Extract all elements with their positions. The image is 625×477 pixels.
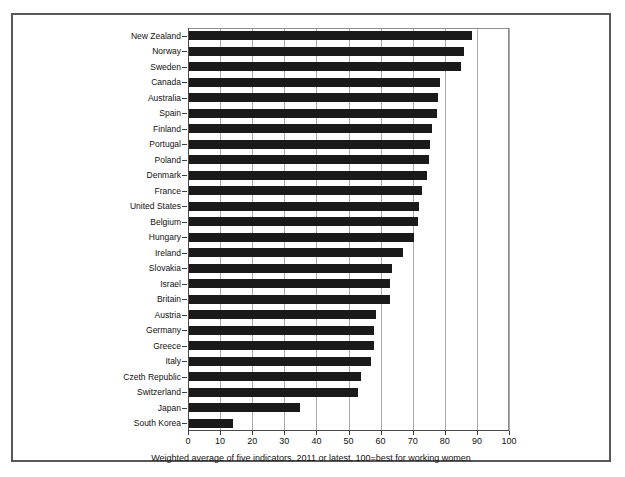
category-axis-labels: New ZealandNorwaySwedenCanadaAustraliaSp… <box>13 28 181 431</box>
x-axis-tick-label: 40 <box>311 436 321 446</box>
bar-row <box>188 109 509 118</box>
bar <box>188 109 437 118</box>
category-label: Spain <box>159 108 181 118</box>
category-tick <box>182 51 187 52</box>
bar-row <box>188 419 509 428</box>
x-axis-tick <box>509 431 510 435</box>
x-axis-tick-label: 80 <box>440 436 450 446</box>
bar-row <box>188 403 509 412</box>
x-axis-tick <box>284 431 285 435</box>
x-axis-tick <box>413 431 414 435</box>
bar <box>188 403 300 412</box>
bar-row <box>188 372 509 381</box>
bar-row <box>188 279 509 288</box>
category-tick <box>182 36 187 37</box>
category-label: Slovakia <box>149 263 181 273</box>
bar <box>188 233 414 242</box>
category-tick <box>182 160 187 161</box>
bar <box>188 31 472 40</box>
x-axis-tick-label: 100 <box>501 436 516 446</box>
bar <box>188 310 376 319</box>
x-axis-tick <box>220 431 221 435</box>
category-tick <box>182 284 187 285</box>
bar-row <box>188 140 509 149</box>
bar-row <box>188 171 509 180</box>
chart-caption: Weighted average of five indicators, 201… <box>13 453 609 463</box>
x-axis-tick-label: 70 <box>408 436 418 446</box>
category-tick <box>182 98 187 99</box>
category-tick <box>182 377 187 378</box>
bar <box>188 93 438 102</box>
category-tick <box>182 191 187 192</box>
category-tick <box>182 175 187 176</box>
category-label: United States <box>130 201 181 211</box>
category-tick <box>182 206 187 207</box>
category-label: Britain <box>157 294 181 304</box>
bar-row <box>188 326 509 335</box>
category-tick <box>182 237 187 238</box>
category-tick <box>182 408 187 409</box>
x-axis-tick-label: 20 <box>247 436 257 446</box>
bar-row <box>188 264 509 273</box>
category-tick <box>182 315 187 316</box>
category-tick <box>182 67 187 68</box>
category-label: Portugal <box>149 139 181 149</box>
x-axis-tick <box>252 431 253 435</box>
bar <box>188 140 430 149</box>
x-axis-tick <box>349 431 350 435</box>
bar <box>188 78 440 87</box>
category-label: South Korea <box>134 418 181 428</box>
category-label: Sweden <box>150 62 181 72</box>
category-label: Finland <box>153 124 181 134</box>
category-label: Israel <box>160 279 181 289</box>
category-label: Ireland <box>155 248 181 258</box>
bar-row <box>188 62 509 71</box>
bar <box>188 341 374 350</box>
bar <box>188 155 429 164</box>
bar <box>188 202 419 211</box>
bar <box>188 186 422 195</box>
bar-series <box>188 28 509 431</box>
bar-row <box>188 310 509 319</box>
x-axis-tick-label: 0 <box>185 436 190 446</box>
category-label: Italy <box>165 356 181 366</box>
category-tick <box>182 129 187 130</box>
category-tick <box>182 361 187 362</box>
category-label: Hungary <box>149 232 181 242</box>
category-label: Czeth Republic <box>123 372 181 382</box>
bar-row <box>188 341 509 350</box>
category-tick <box>182 330 187 331</box>
category-tick <box>182 222 187 223</box>
category-tick <box>182 299 187 300</box>
bar <box>188 419 233 428</box>
category-tick <box>182 346 187 347</box>
bar-row <box>188 295 509 304</box>
category-label: Norway <box>152 46 181 56</box>
bar-row <box>188 248 509 257</box>
bar <box>188 248 403 257</box>
bar-row <box>188 388 509 397</box>
gridline <box>509 28 510 431</box>
category-label: Denmark <box>147 170 181 180</box>
category-tick <box>182 423 187 424</box>
category-label: Greece <box>153 341 181 351</box>
category-tick <box>182 392 187 393</box>
bar-row <box>188 233 509 242</box>
category-label: Germany <box>146 325 181 335</box>
bar-row <box>188 78 509 87</box>
category-label: New Zealand <box>131 31 181 41</box>
bar-row <box>188 93 509 102</box>
bar-row <box>188 202 509 211</box>
bar <box>188 124 432 133</box>
x-axis-tick <box>381 431 382 435</box>
bar <box>188 279 390 288</box>
category-label: Austria <box>155 310 181 320</box>
category-tick <box>182 82 187 83</box>
bar <box>188 62 461 71</box>
bar <box>188 372 361 381</box>
category-label: Canada <box>151 77 181 87</box>
bar-row <box>188 186 509 195</box>
category-tick <box>182 113 187 114</box>
x-axis-tick <box>445 431 446 435</box>
category-label: Australia <box>148 93 181 103</box>
